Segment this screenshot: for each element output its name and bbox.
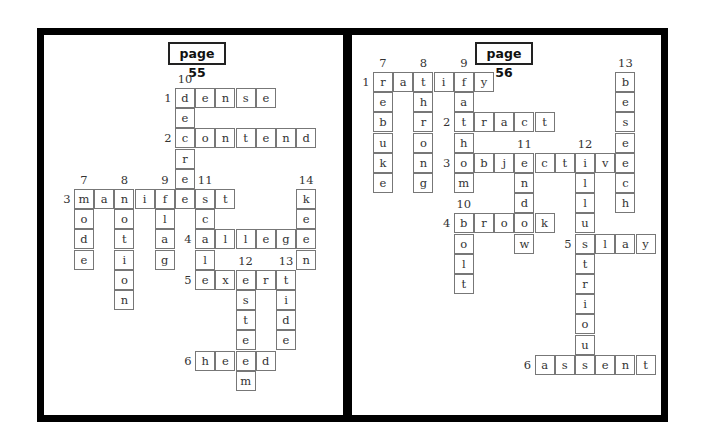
grid-cell[interactable]: a (454, 92, 474, 112)
grid-cell[interactable]: e (175, 169, 195, 189)
grid-cell[interactable]: n (114, 290, 134, 310)
grid-cell[interactable]: s (236, 88, 256, 108)
grid-cell[interactable]: c (615, 173, 635, 193)
grid-cell[interactable]: o (494, 213, 514, 233)
grid-cell[interactable]: n (296, 250, 316, 270)
grid-cell[interactable]: v (595, 153, 615, 173)
grid-cell[interactable]: m (236, 371, 256, 391)
grid-cell[interactable]: r (256, 270, 276, 290)
grid-cell[interactable]: j (494, 153, 514, 173)
grid-cell[interactable]: a (494, 112, 514, 132)
grid-cell[interactable]: e (296, 229, 316, 249)
grid-cell[interactable]: o (413, 133, 433, 153)
grid-cell[interactable]: b (474, 153, 494, 173)
grid-cell[interactable]: i (114, 250, 134, 270)
grid-cell[interactable]: e (514, 153, 534, 173)
grid-cell[interactable]: l (236, 229, 256, 249)
grid-cell[interactable]: a (195, 229, 215, 249)
grid-cell[interactable]: c (195, 209, 215, 229)
grid-cell[interactable]: x (215, 270, 235, 290)
grid-cell[interactable]: r (413, 112, 433, 132)
grid-cell[interactable]: t (276, 270, 296, 290)
grid-cell[interactable]: l (454, 254, 474, 274)
grid-cell[interactable]: m (74, 189, 94, 209)
grid-cell[interactable]: l (575, 193, 595, 213)
grid-cell[interactable]: e (215, 351, 235, 371)
grid-cell[interactable]: e (373, 92, 393, 112)
grid-cell[interactable]: f (155, 189, 175, 209)
grid-cell[interactable]: s (615, 112, 635, 132)
grid-cell[interactable]: a (94, 189, 114, 209)
grid-cell[interactable]: e (615, 133, 635, 153)
grid-cell[interactable]: c (175, 128, 195, 148)
grid-cell[interactable]: i (575, 153, 595, 173)
grid-cell[interactable]: o (575, 314, 595, 334)
grid-cell[interactable]: e (175, 108, 195, 128)
grid-cell[interactable]: w (514, 234, 534, 254)
grid-cell[interactable]: t (413, 72, 433, 92)
grid-cell[interactable]: s (555, 355, 575, 375)
grid-cell[interactable]: h (195, 351, 215, 371)
grid-cell[interactable]: t (555, 153, 575, 173)
grid-cell[interactable]: a (393, 72, 413, 92)
grid-cell[interactable]: i (276, 290, 296, 310)
grid-cell[interactable]: e (195, 270, 215, 290)
grid-cell[interactable]: d (296, 128, 316, 148)
grid-cell[interactable]: a (535, 355, 555, 375)
grid-cell[interactable]: d (276, 310, 296, 330)
grid-cell[interactable]: o (114, 209, 134, 229)
grid-cell[interactable]: e (296, 209, 316, 229)
grid-cell[interactable]: d (74, 229, 94, 249)
grid-cell[interactable]: e (236, 270, 256, 290)
grid-cell[interactable]: r (575, 274, 595, 294)
grid-cell[interactable]: b (454, 213, 474, 233)
grid-cell[interactable]: k (296, 189, 316, 209)
grid-cell[interactable]: o (514, 213, 534, 233)
grid-cell[interactable]: k (373, 153, 393, 173)
grid-cell[interactable]: n (413, 153, 433, 173)
grid-cell[interactable]: m (454, 173, 474, 193)
grid-cell[interactable]: h (615, 193, 635, 213)
grid-cell[interactable]: k (535, 213, 555, 233)
grid-cell[interactable]: e (373, 173, 393, 193)
grid-cell[interactable]: s (195, 189, 215, 209)
grid-cell[interactable]: c (535, 153, 555, 173)
grid-cell[interactable]: f (454, 72, 474, 92)
grid-cell[interactable]: e (256, 88, 276, 108)
grid-cell[interactable]: t (236, 310, 256, 330)
grid-cell[interactable]: o (454, 234, 474, 254)
grid-cell[interactable]: t (575, 254, 595, 274)
grid-cell[interactable]: y (474, 72, 494, 92)
grid-cell[interactable]: e (175, 189, 195, 209)
grid-cell[interactable]: u (373, 133, 393, 153)
grid-cell[interactable]: s (575, 234, 595, 254)
grid-cell[interactable]: b (615, 72, 635, 92)
grid-cell[interactable]: o (195, 128, 215, 148)
grid-cell[interactable]: t (114, 229, 134, 249)
grid-cell[interactable]: b (373, 112, 393, 132)
grid-cell[interactable]: c (514, 112, 534, 132)
grid-cell[interactable]: s (575, 355, 595, 375)
grid-cell[interactable]: e (195, 88, 215, 108)
grid-cell[interactable]: r (474, 213, 494, 233)
grid-cell[interactable]: g (276, 229, 296, 249)
grid-cell[interactable]: e (276, 330, 296, 350)
grid-cell[interactable]: t (236, 128, 256, 148)
grid-cell[interactable]: n (615, 355, 635, 375)
grid-cell[interactable]: g (413, 173, 433, 193)
grid-cell[interactable]: e (615, 153, 635, 173)
grid-cell[interactable]: n (276, 128, 296, 148)
grid-cell[interactable]: n (514, 173, 534, 193)
grid-cell[interactable]: n (215, 128, 235, 148)
grid-cell[interactable]: e (256, 128, 276, 148)
grid-cell[interactable]: n (215, 88, 235, 108)
grid-cell[interactable]: d (256, 351, 276, 371)
grid-cell[interactable]: o (454, 153, 474, 173)
grid-cell[interactable]: u (575, 335, 595, 355)
grid-cell[interactable]: r (474, 112, 494, 132)
grid-cell[interactable]: h (413, 92, 433, 112)
grid-cell[interactable]: e (236, 330, 256, 350)
grid-cell[interactable]: a (155, 229, 175, 249)
grid-cell[interactable]: t (636, 355, 656, 375)
grid-cell[interactable]: l (155, 209, 175, 229)
